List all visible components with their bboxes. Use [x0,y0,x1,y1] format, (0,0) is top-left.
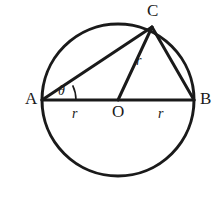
radius-label-ob: r [158,106,164,121]
angle-label-theta: θ [58,83,65,98]
point-label-b: B [200,89,211,108]
radius-label-ao: r [72,106,78,121]
diagram-root: A B C O r r r θ [0,0,222,202]
point-label-a: A [25,89,38,108]
point-label-c: C [147,1,158,20]
point-label-o: O [112,102,124,121]
circle-geometry-diagram: A B C O r r r θ [0,0,222,202]
radius-label-oc: r [136,53,142,68]
